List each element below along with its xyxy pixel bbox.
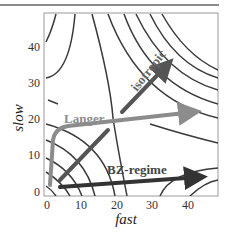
bz-regime-arrow — [60, 177, 200, 187]
y-tick-0: 0 — [34, 185, 40, 199]
y-tick-30: 30 — [28, 76, 40, 90]
x-tick-20: 20 — [111, 198, 123, 212]
x-tick-30: 30 — [146, 198, 158, 212]
bz-regime-label: BZ-regime — [107, 162, 167, 177]
y-tick-40: 40 — [28, 40, 40, 54]
isotropic-arrow-lower — [60, 130, 108, 180]
x-axis-label: fast — [115, 211, 138, 227]
y-axis-label: slow — [10, 104, 26, 132]
x-tick-0: 0 — [44, 198, 50, 212]
chart: Langer BZ-regime isotropic 0 10 20 30 40… — [0, 0, 229, 236]
x-tick-40: 40 — [182, 198, 194, 212]
y-tick-10: 10 — [28, 148, 40, 162]
x-axis: 0 10 20 30 40 — [44, 198, 194, 212]
y-axis: 0 10 20 30 40 — [28, 40, 40, 199]
langer-label: Langer — [64, 111, 105, 126]
x-tick-10: 10 — [75, 198, 87, 212]
y-tick-20: 20 — [28, 112, 40, 126]
